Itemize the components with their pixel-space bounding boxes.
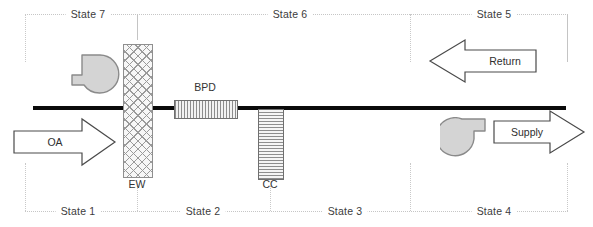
state-label-state-3: State 3 — [323, 205, 368, 217]
oa-arrow — [12, 117, 117, 167]
divider-state7-state6 — [137, 14, 138, 40]
bypass-damper-bpd[interactable] — [174, 100, 238, 119]
duct-segment-left — [33, 106, 125, 110]
supply-fan[interactable] — [440, 117, 494, 159]
state-label-state-2: State 2 — [181, 205, 226, 217]
state-label-state-6: State 6 — [268, 8, 313, 20]
left-boundary-line-lower — [25, 163, 26, 211]
oa-arrow-label: OA — [47, 136, 62, 148]
component-label-ew: EW — [129, 178, 146, 190]
right-boundary-line — [567, 14, 568, 62]
return-arrow-label: Return — [489, 55, 521, 67]
cooling-coil-cc[interactable] — [258, 109, 284, 180]
divider-state3-state4 — [410, 163, 411, 211]
return-arrow — [428, 38, 538, 84]
energy-wheel-ew[interactable] — [123, 44, 153, 178]
component-label-bpd: BPD — [194, 81, 216, 93]
left-boundary-line — [25, 14, 26, 62]
state-label-state-4: State 4 — [472, 205, 517, 217]
ahu-state-diagram: State 7 State 6 State 5 State 1 State 2 … — [0, 0, 593, 227]
return-fan[interactable] — [70, 53, 126, 95]
state-label-state-7: State 7 — [66, 8, 111, 20]
supply-arrow-label: Supply — [511, 126, 543, 138]
component-label-cc: CC — [262, 178, 277, 190]
divider-state6-state5 — [410, 14, 411, 62]
right-boundary-line-lower — [567, 163, 568, 211]
state-label-state-5: State 5 — [472, 8, 517, 20]
state-label-state-1: State 1 — [56, 205, 101, 217]
duct-segment-ew-bpd — [150, 106, 176, 110]
